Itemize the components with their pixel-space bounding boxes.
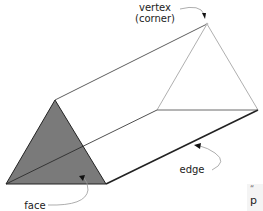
face-label: face — [20, 200, 50, 211]
vertex-label-line1: vertex — [130, 2, 180, 13]
vertex-label-line2: (corner) — [130, 13, 180, 24]
edge-arrowhead — [194, 143, 201, 149]
clipped-letter: p — [250, 194, 257, 207]
vertex-dot — [206, 23, 209, 26]
vertex-label: vertex (corner) — [130, 2, 180, 24]
clipped-text-panel: “ p — [247, 184, 263, 211]
vertex-pointer — [180, 7, 204, 14]
vertex-arrowhead — [202, 13, 206, 19]
back-triangle — [157, 24, 258, 110]
top-edge — [55, 24, 207, 100]
prism-diagram — [0, 0, 263, 211]
clipped-quote: “ — [250, 185, 254, 194]
edge-label: edge — [176, 164, 208, 175]
